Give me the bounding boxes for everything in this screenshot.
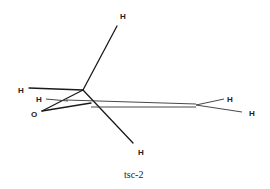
atom-h-bottom: H — [138, 148, 144, 157]
atom-h-left: H — [18, 86, 24, 95]
figure-caption: tsc-2 — [124, 169, 143, 180]
atom-o: O — [31, 110, 37, 119]
bond-c-hbottom — [83, 90, 133, 143]
molecule-diagram: H H H O H H H tsc-2 — [0, 0, 270, 189]
bond-c3-hright-upper — [196, 99, 224, 105]
atom-h-mid: H — [36, 95, 42, 104]
atom-h-right-lower: H — [249, 109, 255, 118]
bonds — [29, 26, 242, 143]
atom-h-top: H — [120, 12, 126, 21]
bond-c-hleft — [29, 88, 83, 90]
bond-c3-hright-lower — [196, 105, 242, 112]
atom-labels: H H H O H H H — [18, 12, 255, 157]
bond-c-htop — [83, 26, 117, 90]
atom-h-right-upper: H — [227, 95, 233, 104]
